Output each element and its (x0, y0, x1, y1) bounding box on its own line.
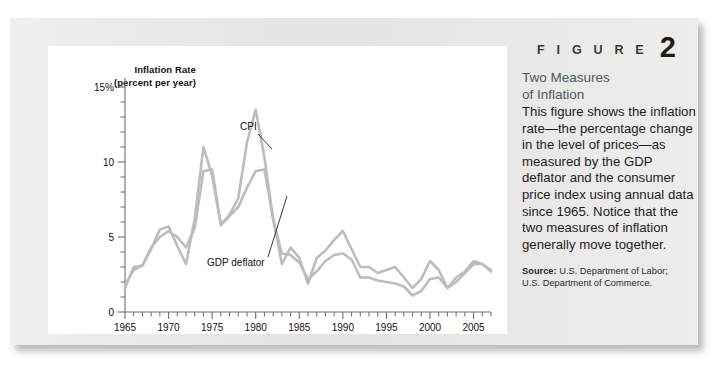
x-tick-label: 1990 (332, 322, 355, 333)
figure-header: F I G U R E 2 (537, 30, 676, 59)
axes-group: 051015%196519701975198019851990199520002… (94, 78, 491, 333)
x-tick-label: 1965 (114, 322, 137, 333)
x-tick-label: 2005 (462, 322, 485, 333)
series-line-gdp-deflator (125, 170, 491, 296)
y-tick-label: 15% (94, 82, 114, 93)
caption-column: Two Measures of Inflation This figure sh… (522, 70, 698, 289)
figure-label: F I G U R E (537, 43, 648, 57)
caption-source: Source: U.S. Department of Labor; U.S. D… (522, 265, 674, 289)
cpi-leader-line (258, 134, 272, 149)
x-tick-label: 2000 (419, 322, 442, 333)
y-tick-label: 10 (103, 157, 115, 168)
y-tick-label: 0 (108, 307, 114, 318)
inflation-line-chart: 051015%196519701975198019851990199520002… (48, 46, 507, 334)
x-tick-label: 1980 (245, 322, 268, 333)
series-line-cpi (125, 110, 491, 289)
x-tick-label: 1975 (201, 322, 224, 333)
caption-title: Two Measures of Inflation (522, 70, 698, 103)
caption-body: This figure shows the inflation rate—the… (522, 104, 698, 253)
y-tick-label: 5 (108, 232, 114, 243)
caption-title-line1: Two Measures (522, 70, 698, 87)
figure-number: 2 (660, 33, 676, 62)
x-tick-label: 1995 (375, 322, 398, 333)
chart-card: Inflation Rate (percent per year) 051015… (48, 46, 507, 334)
series-annotation-cpi: CPI (240, 121, 257, 132)
series-group (125, 110, 491, 296)
x-tick-label: 1985 (288, 322, 311, 333)
series-annotation-gdp-deflator: GDP deflator (207, 257, 265, 268)
caption-title-line2: of Inflation (522, 87, 698, 104)
figure-panel: F I G U R E 2 Inflation Rate (percent pe… (10, 18, 698, 345)
x-tick-label: 1970 (157, 322, 180, 333)
caption-source-label: Source: (522, 266, 557, 276)
